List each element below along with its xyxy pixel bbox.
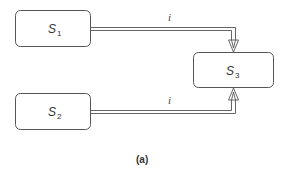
arrowhead-down-icon xyxy=(229,40,239,52)
figure-caption: (a) xyxy=(136,154,148,165)
edge-s1-s3-label: i xyxy=(168,11,171,23)
diagram-canvas: S1 S2 S3 i i (a) xyxy=(0,0,284,176)
arrowhead-up-icon xyxy=(229,88,239,100)
node-s1: S1 xyxy=(16,11,91,47)
edge-s2-s3-label: i xyxy=(168,94,171,106)
edge-s2-s3 xyxy=(91,88,239,114)
node-s2: S2 xyxy=(16,94,91,130)
edge-s1-s3 xyxy=(91,28,239,53)
node-s3: S3 xyxy=(194,53,274,88)
